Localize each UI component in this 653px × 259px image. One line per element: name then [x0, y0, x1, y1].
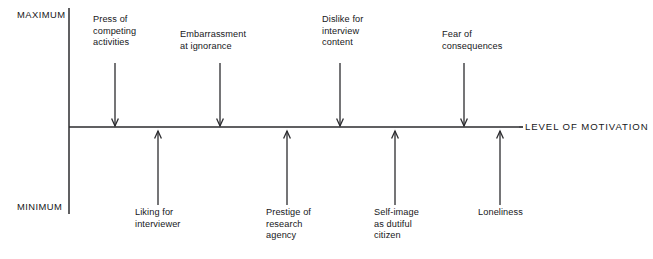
arrow-head-down: [337, 119, 344, 127]
arrow-head-up: [284, 131, 291, 139]
scale-maximum-label: MAXIMUM: [17, 9, 65, 20]
arrow-head-up: [497, 131, 504, 139]
force-label-negative-0: Press of competing activities: [93, 14, 136, 49]
force-arrow-positive-0: [155, 131, 162, 205]
force-label-negative-1: Embarrassment at ignorance: [180, 29, 246, 52]
scale-minimum-label: MINIMUM: [17, 201, 62, 212]
force-label-negative-3: Fear of consequences: [442, 29, 502, 52]
force-arrow-negative-1: [217, 63, 224, 126]
force-label-positive-2: Self-image as dutiful citizen: [374, 207, 419, 242]
force-arrow-positive-1: [284, 131, 291, 205]
force-arrow-negative-3: [461, 63, 468, 126]
axis-title-level-of-motivation: LEVEL OF MOTIVATION: [525, 121, 649, 132]
force-label-negative-2: Dislike for interview content: [322, 14, 363, 49]
force-arrow-negative-0: [112, 63, 119, 126]
arrow-head-down: [112, 119, 119, 127]
force-label-positive-0: Liking for interviewer: [135, 207, 181, 230]
force-arrow-positive-2: [392, 131, 399, 205]
arrow-group: [112, 63, 504, 205]
arrow-head-up: [155, 131, 162, 139]
arrow-head-up: [392, 131, 399, 139]
arrow-head-down: [217, 119, 224, 127]
force-arrow-negative-2: [337, 63, 344, 126]
force-arrow-positive-3: [497, 131, 504, 205]
arrow-head-down: [461, 119, 468, 127]
motivation-diagram: MAXIMUM MINIMUM LEVEL OF MOTIVATION Pres…: [0, 0, 653, 259]
force-label-positive-3: Loneliness: [478, 207, 523, 219]
force-label-positive-1: Prestige of research agency: [266, 207, 311, 242]
